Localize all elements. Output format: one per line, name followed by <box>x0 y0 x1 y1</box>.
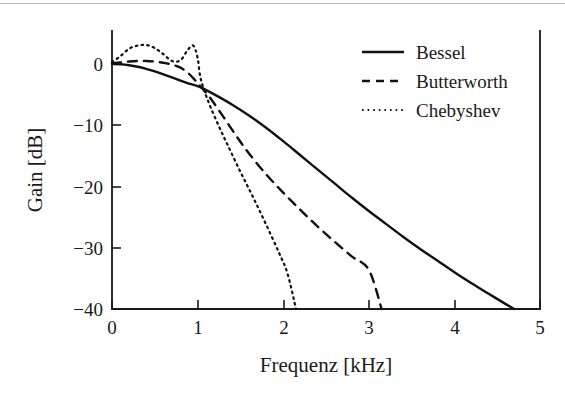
y-tick-label: −30 <box>73 238 103 259</box>
legend-label-butterworth: Butterworth <box>416 71 508 92</box>
y-tick-label: −10 <box>73 115 103 136</box>
y-tick-label: 0 <box>94 54 104 75</box>
x-tick-labels: 0 1 2 3 4 5 <box>107 317 545 338</box>
legend-label-chebyshev: Chebyshev <box>416 100 501 121</box>
x-tick-label: 1 <box>193 317 203 338</box>
legend-label-bessel: Bessel <box>416 42 466 63</box>
x-tick-label: 3 <box>364 317 374 338</box>
x-axis-title: Frequenz [kHz] <box>260 353 392 377</box>
y-tickmarks <box>112 64 121 309</box>
x-tick-label: 0 <box>107 317 117 338</box>
x-tick-label: 5 <box>535 317 545 338</box>
x-tick-label: 2 <box>279 317 289 338</box>
y-axis-title: Gain [dB] <box>23 128 47 213</box>
figure-container: 0 −10 −20 −30 −40 0 1 2 3 4 5 Frequenz [… <box>0 0 565 394</box>
y-tick-label: −40 <box>73 299 103 320</box>
y-tick-labels: 0 −10 −20 −30 −40 <box>73 54 103 320</box>
x-tickmarks <box>112 300 540 309</box>
frequency-response-chart: 0 −10 −20 −30 −40 0 1 2 3 4 5 Frequenz [… <box>0 0 565 394</box>
y-tick-label: −20 <box>73 177 103 198</box>
legend: Bessel Butterworth Chebyshev <box>362 42 508 121</box>
x-tick-label: 4 <box>450 317 460 338</box>
